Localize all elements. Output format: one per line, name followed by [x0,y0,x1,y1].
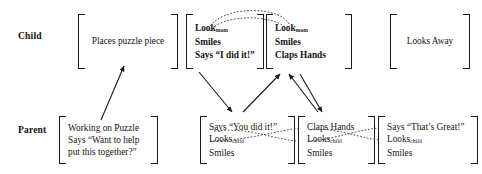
box-line-text: Looks [307,134,330,144]
box-line: put this together?” [68,146,149,158]
box-content: Places puzzle piece [87,14,169,69]
box-line: Smiles [195,36,255,48]
child-box-look-smiles-claps: Lookmom Smiles Claps Hands [266,14,352,69]
box-line: Says “That’s Great!” [387,121,469,133]
box-line: Lookschild [387,133,469,147]
child-box-look-smiles-says: Lookmom Smiles Says “I did it!” [186,14,264,69]
box-line: Lookmom [195,22,255,36]
box-line: Says “Want to help [68,134,149,146]
arrow-parent-you-did-it-to-child-claps [243,74,280,112]
subscript-child: child [232,138,244,144]
bracket-right [345,14,352,69]
bracket-right [463,14,470,69]
parent-box-says-you-did-it: Says “You did it!” Lookschild Smiles [200,116,295,164]
arrow-child-claps-to-parent-thats-great [300,74,322,112]
box-line: Places puzzle piece [92,35,164,47]
bracket-right [151,116,158,164]
bracket-left [200,116,207,164]
child-box-places-puzzle-piece: Places puzzle piece [78,14,178,69]
box-line-text: Look [275,23,296,33]
box-content: Says “That’s Great!” Lookschild Smiles [387,116,469,164]
arrow-parent-puzzle-to-child-places [101,66,124,120]
bracket-left [266,14,273,69]
box-line: Smiles [307,147,366,159]
parent-box-claps-hands: Claps Hands Lookschild Smiles [298,116,375,164]
box-line-text: Look [195,23,216,33]
bracket-right [471,116,478,164]
parent-box-working-on-puzzle: Working on Puzzle Says “Want to help put… [59,116,158,164]
box-line: Smiles [275,36,343,48]
bracket-left [78,14,85,69]
bracket-left [378,116,385,164]
box-line: Says “You did it!” [209,121,286,133]
bracket-left [390,14,397,69]
box-line: Smiles [387,147,469,159]
arrow-child-says-to-parent-you-did-it [199,72,232,112]
subscript-mom: mom [296,27,308,33]
box-line: Looks Away [407,35,453,47]
bracket-left [186,14,193,69]
parent-box-says-thats-great: Says “That’s Great!” Lookschild Smiles [378,116,478,164]
box-content: Says “You did it!” Lookschild Smiles [209,116,286,164]
box-line-text: Looks [387,134,410,144]
box-line: Lookschild [307,133,366,147]
subscript-child: child [330,138,342,144]
bracket-right [288,116,295,164]
child-box-looks-away: Looks Away [390,14,470,69]
arrow-parent-claps-to-child-claps [289,74,318,112]
box-line-text: Looks [209,134,232,144]
bracket-right [257,14,264,69]
box-line: Claps Hands [307,121,366,133]
box-line: Working on Puzzle [68,122,149,134]
box-content: Lookmom Smiles Claps Hands [275,14,343,69]
bracket-right [171,14,178,69]
diagram-canvas: Child Parent Places puzzle piece Lookmom… [0,0,482,174]
bracket-left [298,116,305,164]
box-line: Claps Hands [275,49,343,61]
row-label-parent: Parent [18,125,46,135]
box-content: Working on Puzzle Says “Want to help put… [68,116,149,164]
box-line: Lookmom [275,22,343,36]
bracket-left [59,116,66,164]
subscript-mom: mom [216,27,228,33]
bracket-right [368,116,375,164]
box-content: Looks Away [399,14,461,69]
box-line: Smiles [209,147,286,159]
subscript-child: child [410,138,422,144]
box-line: Says “I did it!” [195,49,255,61]
box-content: Lookmom Smiles Says “I did it!” [195,14,255,69]
box-line: Lookschild [209,133,286,147]
row-label-child: Child [18,31,42,41]
box-content: Claps Hands Lookschild Smiles [307,116,366,164]
